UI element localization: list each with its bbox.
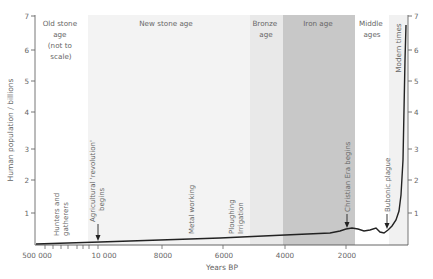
svg-text:3: 3 — [24, 145, 29, 154]
svg-text:3: 3 — [414, 145, 419, 154]
period-label-iron-age: Iron age — [303, 19, 333, 28]
y-tick-labels-right: 7 6 5 4 3 2 1 — [414, 12, 419, 218]
population-chart: Old stone age (not to scale) New stone a… — [0, 0, 433, 279]
svg-text:2: 2 — [24, 176, 29, 185]
y-axis-left — [31, 15, 35, 245]
svg-text:2000: 2000 — [338, 251, 357, 260]
x-tick-labels: 500 000 10 000 8000 6000 4000 2000 — [22, 251, 356, 260]
svg-text:5: 5 — [414, 77, 419, 86]
svg-text:6000: 6000 — [215, 251, 234, 260]
svg-text:8000: 8000 — [154, 251, 173, 260]
period-label-new-stone-age: New stone age — [139, 19, 193, 28]
svg-text:7: 7 — [414, 12, 419, 21]
svg-text:2: 2 — [414, 176, 419, 185]
annotation-christian-era: Christian Era begins — [344, 141, 352, 212]
svg-text:500 000: 500 000 — [22, 251, 52, 260]
band-new-stone-age — [88, 15, 250, 245]
svg-text:1: 1 — [24, 209, 29, 218]
y-axis-right — [408, 15, 412, 245]
svg-text:6: 6 — [414, 46, 419, 55]
svg-text:4: 4 — [414, 108, 419, 117]
svg-text:7: 7 — [24, 12, 29, 21]
x-axis-ticks — [45, 245, 346, 249]
svg-text:4: 4 — [24, 108, 29, 117]
svg-text:5: 5 — [24, 77, 29, 86]
y-axis-label: Human population / billions — [6, 78, 15, 181]
svg-text:6: 6 — [24, 46, 29, 55]
period-label-modern-times: Modern times — [394, 23, 403, 72]
svg-text:4000: 4000 — [276, 251, 295, 260]
annotation-bubonic-plague: Bubonic plague — [384, 158, 392, 212]
annotation-ploughing-irrigation: Ploughing Irrigation — [228, 197, 245, 234]
svg-text:1: 1 — [414, 209, 419, 218]
band-bronze-age — [250, 15, 283, 245]
annotation-metal-working: Metal working — [188, 185, 196, 234]
svg-text:10 000: 10 000 — [91, 251, 117, 260]
x-axis-label: Years BP — [205, 263, 238, 272]
y-tick-labels-left: 7 6 5 4 3 2 1 — [24, 12, 29, 218]
